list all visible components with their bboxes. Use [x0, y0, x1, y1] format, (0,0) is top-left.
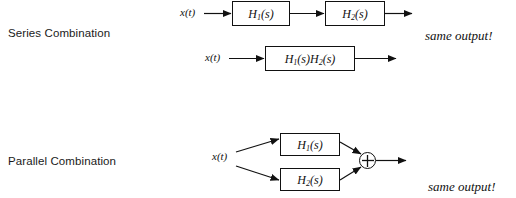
series-row2-block-h1h2-text: H1(s)H2(s) [285, 53, 336, 65]
series-row1-block-h1: H1(s) [232, 1, 290, 26]
arrow-parallel-h1-sum [340, 142, 361, 154]
arrow-parallel-h2-sum [340, 167, 361, 180]
summing-junction [359, 152, 376, 169]
parallel-same-output-note: same output! [428, 179, 496, 195]
parallel-block-h2-text: H2(s) [297, 174, 322, 186]
arrow-parallel-in-top [236, 139, 279, 152]
series-row1-input-label: x(t) [180, 6, 195, 18]
series-row1-block-h2-text: H2(s) [342, 8, 367, 20]
parallel-block-h1-text: H1(s) [297, 139, 322, 151]
parallel-combination-label: Parallel Combination [8, 155, 116, 167]
series-row1-block-h2: H2(s) [325, 1, 385, 26]
series-row1-block-h1-text: H1(s) [248, 8, 273, 20]
block-diagram-figure: Series Combination x(t) H1(s) H2(s) x(t)… [0, 0, 516, 198]
series-combination-label: Series Combination [8, 27, 110, 39]
series-row2-input-label: x(t) [205, 51, 220, 63]
parallel-block-h1: H1(s) [280, 133, 340, 156]
series-same-output-note: same output! [425, 28, 493, 44]
arrow-parallel-in-bottom [236, 166, 279, 180]
series-row2-block-h1h2: H1(s)H2(s) [265, 46, 355, 71]
parallel-block-h2: H2(s) [280, 168, 340, 191]
parallel-input-label: x(t) [212, 150, 227, 162]
